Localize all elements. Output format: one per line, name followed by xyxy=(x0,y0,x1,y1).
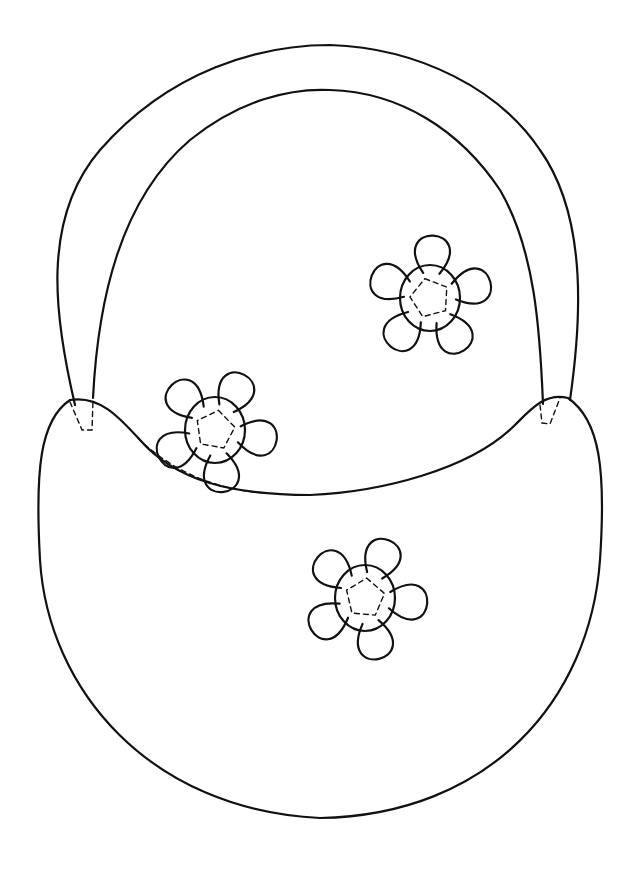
petal xyxy=(313,550,352,588)
center-stitching xyxy=(347,578,385,615)
petal xyxy=(309,603,349,639)
handle-outer xyxy=(57,45,578,405)
flower-center xyxy=(335,565,395,631)
petal xyxy=(358,620,393,659)
petal xyxy=(436,314,472,353)
basket-drawing xyxy=(0,0,638,869)
flower-center xyxy=(185,397,245,463)
center-stitching xyxy=(410,279,447,317)
petal xyxy=(166,379,204,417)
flower-center xyxy=(400,265,460,331)
flower-bottom xyxy=(309,539,428,660)
petal xyxy=(383,312,420,351)
flower-top-right xyxy=(370,236,491,354)
handle-inner xyxy=(93,90,543,404)
flowers-group xyxy=(157,236,491,660)
flower-left xyxy=(157,372,277,492)
center-stitching xyxy=(197,410,235,448)
handle-tab-left xyxy=(70,400,93,430)
basket-body xyxy=(38,397,602,818)
